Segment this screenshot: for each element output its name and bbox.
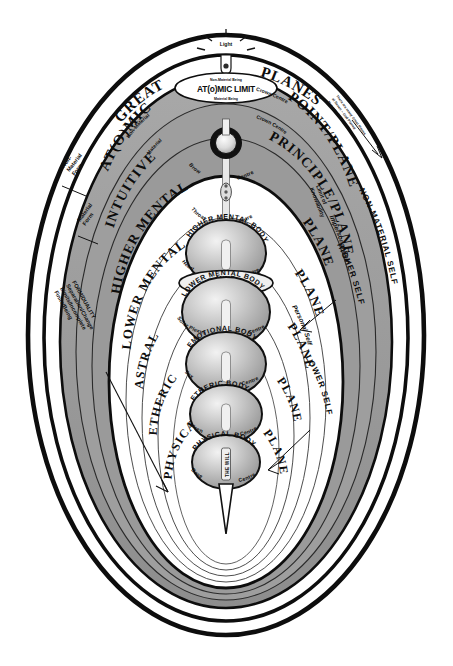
non-material-being-label: Non-Material Being xyxy=(210,78,242,82)
crown-stem xyxy=(223,119,230,135)
diagram-canvas: Light Non-Material Being AT(o)MIC LIMIT … xyxy=(0,0,453,666)
throat-centre-group xyxy=(221,183,232,201)
body-higher-mental-channel xyxy=(222,240,231,270)
throat-bead-2 xyxy=(224,190,227,193)
great-planes-diagram: Light Non-Material Being AT(o)MIC LIMIT … xyxy=(0,0,453,666)
light-label: Light xyxy=(220,41,233,47)
body-emotional-channel xyxy=(222,352,231,382)
atomic-limit-label: AT(o)MIC LIMIT xyxy=(197,84,256,94)
the-will-label: THE WILL xyxy=(225,452,230,477)
throat-bead-1 xyxy=(224,184,227,187)
throat-bead-3 xyxy=(224,196,227,199)
material-being-label: Material Being xyxy=(214,97,238,101)
body-etheric-channel xyxy=(222,404,231,431)
light-core-icon xyxy=(223,63,228,68)
crown-centre-core xyxy=(216,133,237,154)
